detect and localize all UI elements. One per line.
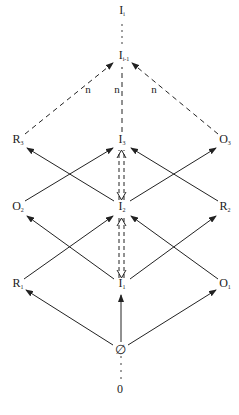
node-I-i-minus-1: Ii-1 (119, 49, 130, 65)
dots-top (121, 24, 123, 44)
node-O1: O1 (219, 277, 231, 293)
equivalence-I2-I3 (117, 150, 126, 200)
node-R2: R2 (219, 200, 230, 216)
edge-label-n-right: n (151, 83, 157, 95)
node-zero: 0 (117, 383, 123, 395)
edge-label-n-left: n (85, 83, 91, 95)
node-I-i: Ii (119, 4, 125, 20)
edge-O2-I3 (25, 148, 113, 201)
node-O2: O2 (12, 200, 24, 216)
node-empty-set: ∅ (115, 344, 126, 356)
edge-R2-I3 (131, 148, 218, 201)
node-R3: R3 (12, 133, 23, 149)
node-R1: R1 (12, 277, 23, 293)
edge-R3-Iim1 (25, 63, 113, 134)
edge-label-n-center: n (114, 83, 120, 95)
node-O3: O3 (219, 133, 231, 149)
edge-I1-R2 (130, 216, 216, 279)
equivalence-I1-I2 (117, 218, 126, 278)
edge-empty-O1 (128, 290, 216, 345)
node-I2: I2 (119, 200, 126, 216)
edge-O3-Iim1 (132, 63, 218, 134)
edge-empty-R1 (26, 290, 113, 345)
edge-R1-I2 (24, 216, 113, 279)
node-I3: I3 (119, 133, 126, 149)
edge-I1-O2 (27, 216, 114, 279)
edge-O1-I2 (131, 216, 218, 279)
edge-I2-O3 (130, 148, 216, 201)
dots-bottom (120, 356, 122, 379)
edge-I2-R3 (27, 148, 114, 201)
node-I1: I1 (119, 277, 126, 293)
